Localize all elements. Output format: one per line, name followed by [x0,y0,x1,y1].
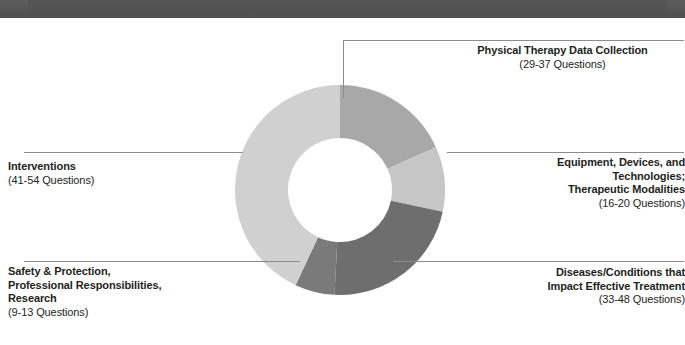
label-question-range: (33-48 Questions) [452,293,685,307]
slice-diseases-conditions[interactable] [335,201,443,295]
label-title-line-3: Therapeutic Modalities [452,183,685,197]
label-title-line-2: Professional Responsibilities, [8,279,248,293]
label-title: Physical Therapy Data Collection [440,44,685,58]
label-question-range: (29-37 Questions) [440,58,685,72]
label-title-line-1: Safety & Protection, [8,265,248,279]
label-question-range: (16-20 Questions) [452,197,685,211]
label-title-line-1: Equipment, Devices, and [452,156,685,170]
label-equipment-devices-technologies: Equipment, Devices, and Technologies; Th… [452,156,685,210]
label-title: Interventions [8,160,248,174]
label-interventions: Interventions (41-54 Questions) [8,160,248,187]
label-title-line-3: Research [8,292,248,306]
label-title-line-2: Technologies; [452,170,685,184]
label-diseases-conditions: Diseases/Conditions that Impact Effectiv… [452,266,685,307]
donut-slices [235,85,445,295]
chart-page: Physical Therapy Data Collection (29-37 … [0,0,685,345]
label-title-line-2: Impact Effective Treatment [452,280,685,294]
label-title-line-1: Diseases/Conditions that [452,266,685,280]
leader-lines [24,41,684,262]
label-question-range: (41-54 Questions) [8,174,248,188]
label-question-range: (9-13 Questions) [8,306,248,320]
label-safety-protection-research: Safety & Protection, Professional Respon… [8,265,248,319]
label-physical-therapy-data-collection: Physical Therapy Data Collection (29-37 … [440,44,685,71]
